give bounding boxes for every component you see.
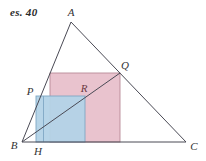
- geometry-canvas: [0, 0, 206, 161]
- vertex-label-H: H: [34, 146, 42, 157]
- vertex-label-C: C: [190, 141, 197, 152]
- vertex-label-R: R: [81, 83, 88, 94]
- vertex-label-P: P: [27, 86, 34, 97]
- vertex-label-B: B: [11, 140, 18, 151]
- geometry-figure: es. 40 A B C Q P R H: [0, 0, 206, 161]
- vertex-label-A: A: [68, 7, 75, 18]
- vertex-label-Q: Q: [121, 60, 129, 71]
